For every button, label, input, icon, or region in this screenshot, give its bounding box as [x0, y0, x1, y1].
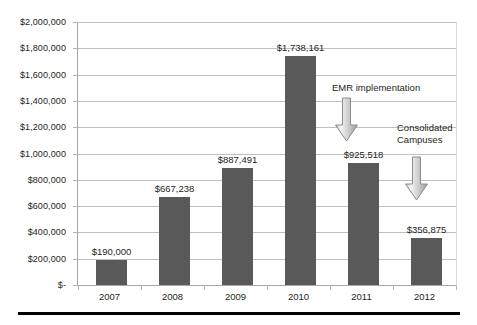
x-tick-mark-2 — [204, 285, 205, 290]
annotation-consolidated-campuses-line-1: Consolidated — [397, 122, 452, 134]
bar-2007[interactable] — [96, 260, 127, 285]
y-axis-labels: $- $200,000 $400,000 $600,000 $800,000 $… — [0, 0, 72, 325]
bar-chart-figure: $- $200,000 $400,000 $600,000 $800,000 $… — [0, 0, 477, 325]
x-tick-mark-3 — [267, 285, 268, 290]
x-tick-label-2009: 2009 — [225, 291, 246, 302]
x-tick-label-2010: 2010 — [288, 291, 309, 302]
x-tick-mark-0 — [78, 285, 79, 290]
bar-value-label-2012: $356,875 — [407, 224, 447, 235]
bottom-horizontal-rule — [18, 312, 460, 315]
bars-layer — [78, 22, 456, 285]
x-tick-mark-6 — [456, 285, 457, 290]
y-tick-label-8: $1,600,000 — [20, 70, 66, 80]
x-tick-mark-1 — [141, 285, 142, 290]
y-tick-label-9: $1,800,000 — [20, 43, 66, 53]
y-tick-label-7: $1,400,000 — [20, 96, 66, 106]
y-tick-label-6: $1,200,000 — [20, 122, 66, 132]
y-tick-label-2: $400,000 — [28, 227, 66, 237]
y-tick-label-0: $- — [58, 280, 66, 290]
x-tick-mark-5 — [393, 285, 394, 290]
y-tick-label-5: $1,000,000 — [20, 149, 66, 159]
x-tick-label-2007: 2007 — [99, 291, 120, 302]
x-tick-label-2008: 2008 — [162, 291, 183, 302]
y-tick-label-3: $600,000 — [28, 201, 66, 211]
bar-2008[interactable] — [159, 197, 190, 285]
bar-2012[interactable] — [411, 238, 442, 285]
y-tick-label-4: $800,000 — [28, 175, 66, 185]
x-tick-label-2012: 2012 — [414, 291, 435, 302]
bar-value-label-2007: $190,000 — [92, 246, 132, 257]
down-arrow-icon — [334, 97, 359, 143]
bar-value-label-2011: $925,518 — [344, 149, 384, 160]
bar-2011[interactable] — [348, 163, 379, 285]
y-tick-label-1: $200,000 — [28, 254, 66, 264]
bar-2009[interactable] — [222, 168, 253, 285]
bar-value-label-2010: $1,738,161 — [277, 42, 325, 53]
x-tick-mark-4 — [330, 285, 331, 290]
bar-value-label-2009: $887,491 — [218, 154, 258, 165]
bar-value-label-2008: $667,238 — [155, 183, 195, 194]
annotation-consolidated-campuses-line-2: Campuses — [397, 134, 452, 146]
plot-right-border — [456, 22, 457, 286]
annotation-consolidated-campuses-label: Consolidated Campuses — [397, 122, 452, 146]
down-arrow-icon — [404, 156, 429, 202]
annotation-emr-implementation-label: EMR implementation — [332, 82, 420, 94]
x-tick-label-2011: 2011 — [351, 291, 371, 302]
y-tick-label-10: $2,000,000 — [20, 17, 66, 27]
bar-2010[interactable] — [285, 56, 316, 285]
